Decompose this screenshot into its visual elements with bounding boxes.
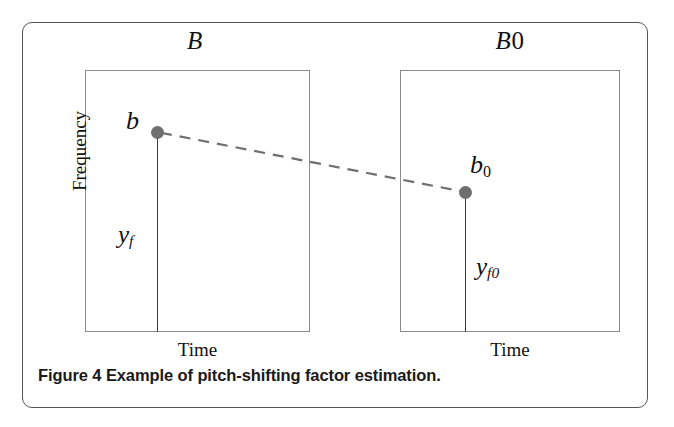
plot-box-b0: [400, 70, 620, 332]
magnitude-label-yf: yf: [118, 222, 133, 247]
peak-label-b0-base: b: [470, 150, 483, 179]
peak-marker-b: [151, 126, 164, 139]
panel-b0: B0 Time: [375, 28, 645, 368]
y-axis-label-frequency: Frequency: [69, 71, 91, 231]
figure-caption-text: Example of pitch-shifting factor estimat…: [106, 366, 441, 384]
panel-b-title: B: [60, 28, 330, 53]
stem-line-b0: [465, 192, 466, 332]
stem-line-b: [157, 132, 158, 332]
figure-caption-number: Figure 4: [38, 366, 101, 384]
figure-root: B Frequency Time B0 Time b b0 yf yf0 Fig…: [0, 0, 674, 427]
magnitude-label-yf-subscript: f: [129, 232, 133, 249]
peak-label-b0: b0: [470, 152, 491, 178]
plot-box-b: [85, 70, 310, 332]
peak-marker-b0: [459, 186, 472, 199]
magnitude-label-yf0-subscript: f0: [487, 264, 499, 281]
panel-b-title-italic: B: [187, 27, 203, 54]
peak-label-b0-subscript: 0: [483, 163, 491, 180]
magnitude-label-yf0-base: y: [476, 253, 487, 280]
panel-b0-title: B0: [375, 28, 645, 53]
magnitude-label-yf0: yf0: [476, 254, 499, 279]
peak-label-b-base: b: [126, 106, 139, 135]
panel-b0-title-italic: B: [496, 27, 512, 54]
magnitude-label-yf-base: y: [118, 221, 129, 248]
peak-label-b: b: [126, 108, 139, 134]
x-axis-label-time-b0: Time: [400, 340, 620, 359]
figure-caption: Figure 4 Example of pitch-shifting facto…: [38, 366, 618, 386]
panel-b: B Frequency Time: [60, 28, 330, 368]
x-axis-label-time-b: Time: [85, 340, 310, 359]
panel-b0-title-upright: 0: [511, 27, 524, 54]
